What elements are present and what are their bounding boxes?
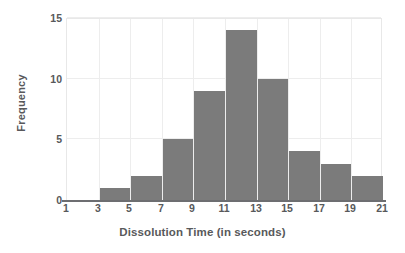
histogram-bar [131, 176, 162, 200]
x-axis-tick-label: 13 [241, 203, 271, 214]
gridline-horizontal [67, 17, 381, 18]
histogram-bar [100, 188, 130, 200]
y-axis-tick-label: 10 [36, 74, 62, 85]
histogram-bar [226, 30, 257, 200]
histogram-figure: Frequency 051015 13579111315171921 Disso… [0, 0, 405, 253]
bars-layer [67, 19, 381, 200]
histogram-bar [352, 176, 383, 200]
x-axis-tick-label: 11 [209, 203, 239, 214]
x-axis-title: Dissolution Time (in seconds) [0, 226, 405, 238]
plot-area [66, 18, 382, 200]
x-axis-tick-label: 3 [83, 203, 113, 214]
y-axis-tick-label: 15 [36, 13, 62, 24]
x-axis-tick-label: 5 [114, 203, 144, 214]
x-axis-tick-label: 9 [177, 203, 207, 214]
x-axis-tick-label: 1 [51, 203, 81, 214]
x-axis-tick-label: 21 [367, 203, 397, 214]
x-axis-tick-label: 15 [272, 203, 302, 214]
x-axis-tick-label: 17 [304, 203, 334, 214]
y-axis-tick-labels: 051015 [34, 0, 62, 253]
histogram-bar [321, 164, 351, 200]
histogram-bar [163, 139, 193, 200]
x-axis-tick-label: 7 [146, 203, 176, 214]
histogram-bar [258, 79, 288, 200]
x-axis-tick-label: 19 [335, 203, 365, 214]
histogram-bar [194, 91, 225, 200]
histogram-bar [289, 151, 320, 200]
x-axis-tick-labels: 13579111315171921 [66, 203, 382, 219]
y-axis-title-label: Frequency [15, 74, 27, 131]
y-axis-tick-label: 5 [36, 134, 62, 145]
